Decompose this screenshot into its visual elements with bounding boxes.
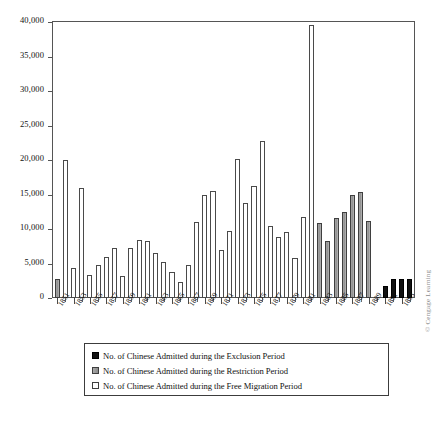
bar-1876 [260,141,265,298]
bar-1883 [317,223,322,298]
bar-1863 [153,253,158,298]
chart-legend: No. of Chinese Admitted during the Exclu… [84,343,389,396]
y-axis: 05,00010,00015,00020,00025,00030,00035,0… [0,0,52,320]
bar-1851 [55,279,60,298]
y-axis-tick-label: 10,000 [20,222,44,232]
bar-1868 [194,222,199,298]
y-axis-tick-label: 30,000 [20,84,44,94]
bar-1852 [63,160,68,298]
legend-label: No. of Chinese Admitted during the Exclu… [103,351,285,361]
bar-1853 [71,268,76,298]
bar-1854 [79,188,84,298]
legend-swatch-free-icon [92,382,99,389]
legend-item-exclusion: No. of Chinese Admitted during the Exclu… [92,348,381,363]
copyright-credit: © Cengage Learning [424,270,432,332]
bar-1861 [137,240,142,298]
bar-1889 [366,221,371,298]
bar-1869 [202,195,207,298]
bar-1886 [342,212,347,298]
bar-1893 [399,279,404,298]
y-axis-tick-label: 40,000 [20,15,44,25]
y-axis-tick-label: 35,000 [20,50,44,60]
bar-1885 [334,218,339,298]
bar-1884 [325,241,330,298]
legend-item-free: No. of Chinese Admitted during the Free … [92,378,381,393]
bar-1872 [227,231,232,298]
bar-series-container [53,22,414,298]
bar-1878 [276,237,281,298]
bar-1882 [309,25,314,298]
bar-1887 [350,195,355,298]
bar-1879 [284,232,289,298]
y-axis-tick-label: 15,000 [20,188,44,198]
y-axis-tick-label: 25,000 [20,119,44,129]
chart-figure: 05,00010,00015,00020,00025,00030,00035,0… [0,0,446,422]
bar-1877 [268,226,273,298]
bar-1871 [219,250,224,298]
bar-1888 [358,192,363,298]
x-axis-labels: 1851185318551857185918611863186518671869… [52,303,432,337]
legend-item-restriction: No. of Chinese Admitted during the Restr… [92,363,381,378]
legend-label: No. of Chinese Admitted during the Free … [103,381,302,391]
legend-swatch-exclusion-icon [92,352,99,359]
y-axis-tick-label: 5,000 [24,257,44,267]
legend-swatch-restriction-icon [92,367,99,374]
legend-label: No. of Chinese Admitted during the Restr… [103,366,288,376]
y-axis-tick-label: 0 [40,291,44,301]
bar-1867 [186,265,191,298]
bar-1874 [243,203,248,298]
y-axis-tick-label: 20,000 [20,153,44,163]
bar-1857 [104,257,109,298]
bar-1870 [210,191,215,298]
bar-1873 [235,159,240,298]
bar-1881 [301,217,306,298]
bar-1875 [251,186,256,298]
